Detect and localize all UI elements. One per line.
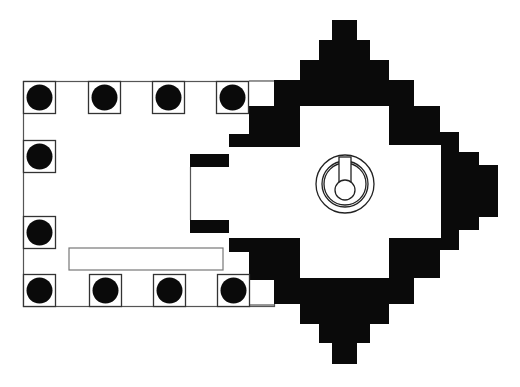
linga-yoni-icon [316, 155, 374, 213]
column [24, 217, 56, 249]
column-shaft-icon [221, 278, 247, 304]
bench [69, 248, 223, 270]
temple-floor-plan [0, 0, 520, 387]
column [24, 275, 56, 307]
column [153, 82, 185, 114]
corner-notch-top [249, 81, 274, 106]
column [218, 275, 250, 307]
column-shaft-icon [93, 278, 119, 304]
column [24, 141, 56, 173]
column-shaft-icon [27, 278, 53, 304]
column-shaft-icon [27, 220, 53, 246]
column-shaft-icon [27, 85, 53, 111]
column-shaft-icon [157, 278, 183, 304]
column-shaft-icon [92, 85, 118, 111]
column [24, 82, 56, 114]
column-shaft-icon [156, 85, 182, 111]
column [154, 275, 186, 307]
column [217, 82, 249, 114]
column-shaft-icon [220, 85, 246, 111]
column [90, 275, 122, 307]
corner-notch-bottom [249, 280, 274, 305]
column [89, 82, 121, 114]
column-shaft-icon [27, 144, 53, 170]
